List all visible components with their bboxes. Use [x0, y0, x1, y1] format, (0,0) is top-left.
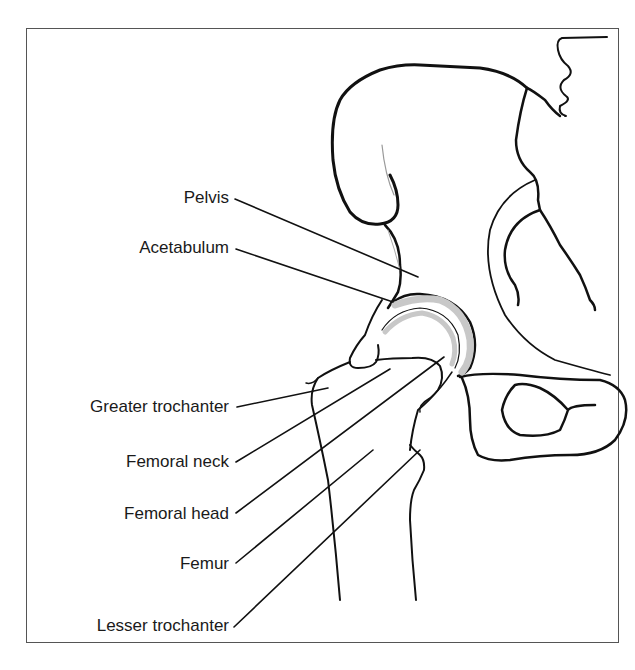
label-femoral-head: Femoral head [124, 504, 229, 524]
label-femur: Femur [180, 554, 229, 574]
obturator-outline [460, 180, 626, 460]
acetabulum-cartilage [382, 294, 475, 376]
label-greater-trochanter: Greater trochanter [90, 397, 229, 417]
sacrum-outline [558, 37, 608, 116]
label-femoral-neck: Femoral neck [126, 452, 229, 472]
label-acetabulum: Acetabulum [139, 238, 229, 258]
femur-outline [306, 300, 452, 600]
hip-joint-illustration [0, 0, 635, 670]
label-lesser-trochanter: Lesser trochanter [97, 616, 229, 636]
label-pelvis: Pelvis [184, 188, 229, 208]
pelvis-outline [332, 65, 595, 310]
